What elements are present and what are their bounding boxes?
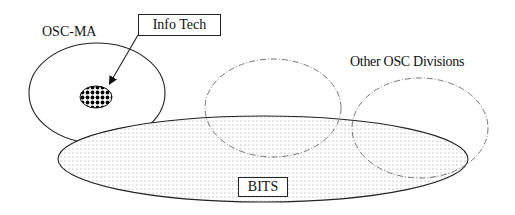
other-osc-divisions-label: Other OSC Divisions <box>350 55 464 69</box>
bits-label-box: BITS <box>238 177 288 197</box>
info-tech-label-box: Info Tech <box>138 14 221 36</box>
info-tech-ellipse <box>80 86 112 108</box>
osc-ma-label: OSC-MA <box>42 25 96 39</box>
info-tech-arrow <box>110 35 138 83</box>
